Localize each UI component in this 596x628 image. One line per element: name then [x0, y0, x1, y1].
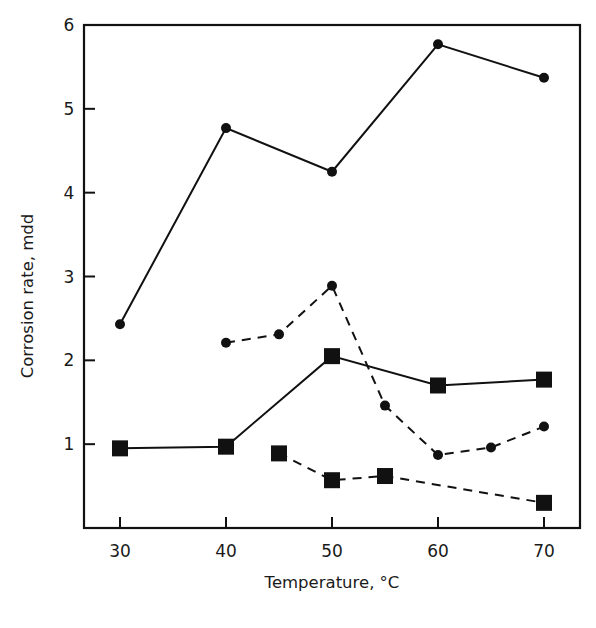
y-tick-label: 2 — [64, 350, 75, 370]
data-point-square — [536, 372, 552, 388]
y-tick-label: 1 — [64, 434, 75, 454]
plot-border — [84, 25, 580, 528]
x-tick-label: 30 — [109, 541, 131, 561]
data-point-square — [536, 495, 552, 511]
data-point-circle — [115, 319, 125, 329]
series-line — [279, 453, 544, 502]
data-point-circle — [274, 329, 284, 339]
corrosion-rate-chart: 123456 3040506070 Temperature, °C Corros… — [0, 0, 596, 628]
data-point-circle — [380, 401, 390, 411]
y-tick-label: 3 — [64, 267, 75, 287]
data-point-square — [430, 377, 446, 393]
data-point-circle — [433, 450, 443, 460]
data-point-circle — [539, 422, 549, 432]
x-tick-label: 40 — [215, 541, 237, 561]
y-axis-label: Corrosion rate, mdd — [18, 214, 37, 379]
data-point-circle — [539, 73, 549, 83]
data-point-square — [218, 439, 234, 455]
plot-frame — [84, 25, 580, 528]
series-line — [120, 356, 544, 448]
series-solid-squares — [112, 348, 552, 456]
data-point-circle — [221, 338, 231, 348]
data-point-square — [377, 468, 393, 484]
y-tick-label: 5 — [64, 99, 75, 119]
x-axis-ticks: 3040506070 — [109, 517, 555, 561]
data-point-square — [271, 445, 287, 461]
y-tick-label: 4 — [64, 183, 75, 203]
data-point-circle — [486, 443, 496, 453]
x-tick-label: 60 — [427, 541, 449, 561]
data-point-circle — [327, 281, 337, 291]
data-point-circle — [433, 39, 443, 49]
data-point-circle — [327, 167, 337, 177]
x-tick-label: 70 — [533, 541, 555, 561]
data-point-square — [324, 348, 340, 364]
series-layer — [112, 39, 552, 511]
x-tick-label: 50 — [321, 541, 343, 561]
y-tick-label: 6 — [64, 15, 75, 35]
series-dashed-squares — [271, 445, 552, 510]
data-point-square — [324, 472, 340, 488]
data-point-circle — [221, 123, 231, 133]
data-point-square — [112, 440, 128, 456]
y-axis-ticks: 123456 — [64, 15, 95, 454]
x-axis-label: Temperature, °C — [264, 573, 400, 592]
